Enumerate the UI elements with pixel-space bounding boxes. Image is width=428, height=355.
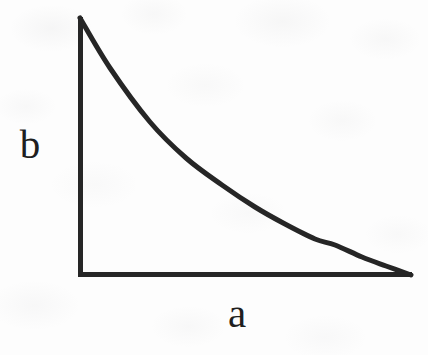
figure-canvas: b a	[0, 0, 428, 355]
y-axis-label: b	[8, 124, 52, 165]
x-axis-label: a	[214, 293, 260, 334]
decay-curve-line	[80, 18, 411, 275]
